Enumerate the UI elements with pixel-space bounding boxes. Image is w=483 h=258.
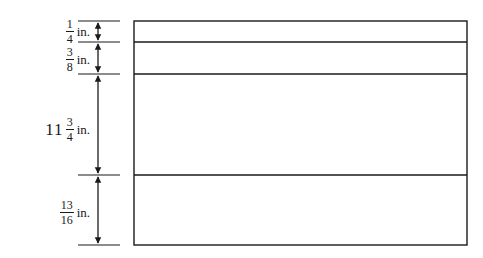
fraction: 3 4 [66, 116, 74, 143]
dimension-label-1: 1 4 in. [0, 21, 90, 42]
dimension-label-2: 3 8 in. [0, 44, 90, 74]
dimension-label-3: 11 3 4 in. [0, 112, 90, 146]
fraction: 3 8 [66, 46, 74, 73]
section-dividers [134, 42, 467, 175]
sheet-rectangle [134, 21, 467, 245]
fraction: 13 16 [60, 199, 74, 226]
dimension-label-4: 13 16 in. [0, 195, 90, 229]
fraction: 1 4 [66, 18, 74, 45]
